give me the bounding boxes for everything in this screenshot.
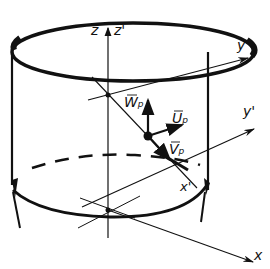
vector-u-label: Up bbox=[172, 111, 188, 125]
vector-w-label: Wp bbox=[124, 95, 144, 109]
cylinder-bottom-front-arc bbox=[13, 185, 207, 217]
z-axis-label: z bbox=[91, 23, 98, 37]
diagram-drawing bbox=[0, 0, 270, 269]
vector-v-label: Vp bbox=[169, 142, 184, 156]
y-axis-label: y bbox=[237, 38, 245, 52]
cylinder-coordinate-diagram: z z' y y' x' x Wp Up Vp bbox=[0, 0, 270, 269]
y-prime-axis-label: y' bbox=[243, 104, 255, 118]
x-prime-axis-label: x' bbox=[180, 180, 191, 193]
cylinder-top-rim bbox=[12, 23, 255, 81]
x-axis bbox=[108, 210, 253, 262]
z-prime-axis-label: z' bbox=[114, 23, 125, 37]
vector-u bbox=[148, 125, 182, 136]
x-axis-label: x bbox=[254, 248, 262, 262]
